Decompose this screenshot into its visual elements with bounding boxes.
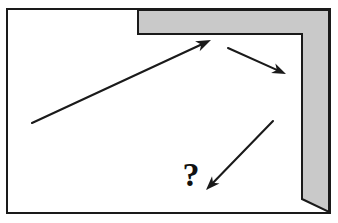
question-mark-label: ? [183,156,200,193]
diagram-canvas: ? [0,0,338,223]
diagram-svg: ? [0,0,338,223]
